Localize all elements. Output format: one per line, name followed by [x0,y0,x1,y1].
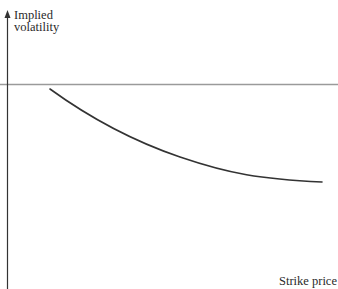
y-axis-label: Implied volatility [14,10,59,33]
chart-canvas [0,0,338,289]
y-axis-arrow-icon [5,10,11,18]
x-axis-label: Strike price [279,274,337,289]
y-axis-label-line-2: volatility [14,22,59,34]
volatility-skew-curve [50,89,322,182]
